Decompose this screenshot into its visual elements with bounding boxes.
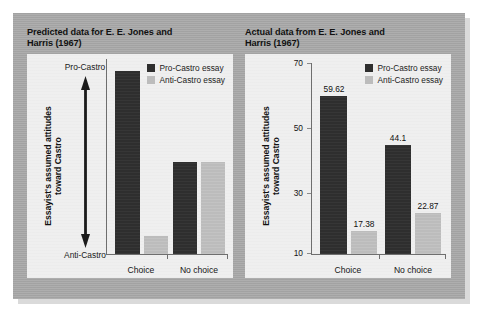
dark-swatch-icon	[147, 64, 155, 72]
figure-shadow-bottom	[18, 299, 470, 304]
figure-container: Predicted data for E. E. Jones and Harri…	[13, 13, 465, 299]
bar-predicted-nochoice-pro	[173, 162, 197, 254]
x-axis-tick	[379, 255, 380, 259]
bar-actual-nochoice-pro	[385, 145, 411, 254]
panel-title-predicted: Predicted data for E. E. Jones and Harri…	[27, 27, 233, 50]
x-axis-tick	[227, 255, 228, 259]
legend-label-anti-castro: Anti-Castro essay	[378, 75, 443, 85]
plot-area-actual: Essayist's assumed attitudes toward Cast…	[245, 54, 451, 278]
value-label-choice-pro: 59.62	[315, 84, 353, 94]
y-axis-tick-label-10: 10	[285, 248, 303, 258]
y-axis-line-actual	[311, 63, 312, 254]
panel-predicted: Predicted data for E. E. Jones and Harri…	[27, 27, 233, 285]
value-label-nochoice-anti: 22.87	[409, 201, 447, 211]
legend-item-pro-castro: Pro-Castro essay	[365, 63, 443, 73]
panel-title-actual: Actual data from E. E. Jones and Harris …	[245, 27, 451, 50]
y-axis-tick-label-30: 30	[285, 188, 303, 198]
legend-actual: Pro-Castro essay Anti-Castro essay	[365, 63, 443, 85]
bar-predicted-nochoice-anti	[201, 162, 225, 254]
legend-label-anti-castro: Anti-Castro essay	[160, 75, 225, 85]
light-swatch-icon	[147, 76, 155, 84]
bar-predicted-choice-pro	[115, 71, 140, 254]
legend-item-anti-castro: Anti-Castro essay	[365, 75, 443, 85]
legend-predicted: Pro-Castro essay Anti-Castro essay	[147, 63, 225, 85]
panel-actual: Actual data from E. E. Jones and Harris …	[245, 27, 451, 285]
legend-label-pro-castro: Pro-Castro essay	[378, 63, 442, 73]
y-axis-title-actual: Essayist's assumed attitudes toward Cast…	[258, 54, 284, 278]
x-axis-tick	[445, 255, 446, 259]
axis-top-label-pro-castro: Pro-Castro	[49, 62, 121, 72]
value-label-choice-anti: 17.38	[345, 219, 383, 229]
plot-area-predicted: Essayist's assumed attitudes toward Cast…	[27, 54, 233, 278]
x-axis-tick	[167, 255, 168, 259]
y-axis-tick-label-70: 70	[285, 58, 303, 68]
x-axis-label-no-choice: No choice	[168, 265, 230, 275]
dark-swatch-icon	[365, 64, 373, 72]
legend-item-anti-castro: Anti-Castro essay	[147, 75, 225, 85]
bar-actual-choice-pro	[320, 96, 347, 254]
legend-item-pro-castro: Pro-Castro essay	[147, 63, 225, 73]
light-swatch-icon	[365, 76, 373, 84]
y-axis-tick-label-50: 50	[285, 123, 303, 133]
x-axis-label-no-choice: No choice	[382, 265, 444, 275]
bar-actual-nochoice-anti	[415, 213, 441, 254]
x-axis-label-choice: Choice	[110, 265, 172, 275]
y-axis-line-predicted	[106, 59, 107, 255]
x-axis-label-choice: Choice	[317, 265, 379, 275]
value-label-nochoice-pro: 44.1	[381, 133, 415, 143]
bar-actual-choice-anti	[351, 231, 377, 254]
double-headed-vertical-arrow-icon	[81, 76, 90, 248]
figure-shadow-right	[465, 18, 470, 304]
y-axis-title-predicted: Essayist's assumed attitudes toward Cast…	[40, 54, 66, 278]
legend-label-pro-castro: Pro-Castro essay	[160, 63, 224, 73]
bar-predicted-choice-anti	[144, 236, 168, 254]
